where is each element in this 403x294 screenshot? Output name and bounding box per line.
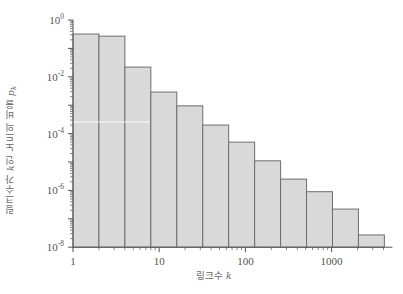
y-label-prefix: 링크수가 xyxy=(5,174,16,214)
y-tick-label: 100 xyxy=(49,12,64,26)
histogram-bar xyxy=(151,92,177,247)
y-tick-label: 10-8 xyxy=(47,239,64,253)
x-axis-ticks: 1101001000 xyxy=(70,247,383,267)
y-axis-ticks: 10010-210-410-610-8 xyxy=(47,12,73,253)
y-tick-label: 10-2 xyxy=(47,69,64,83)
histogram-bar xyxy=(125,67,151,247)
y-tick-label: 10-4 xyxy=(47,126,64,140)
histogram-bar xyxy=(255,161,281,247)
x-axis-label: 링크수 k xyxy=(196,268,232,282)
histogram-chart: 10010-210-410-610-8 1101001000 xyxy=(0,0,403,294)
histogram-bar xyxy=(99,36,125,247)
x-tick-label: 1000 xyxy=(321,255,344,267)
y-label-pk: p xyxy=(5,90,16,96)
y-axis-label: 링크수가 k인 노드의 비율 pk xyxy=(4,50,18,250)
x-label-var: k xyxy=(226,270,232,281)
histogram-bar xyxy=(177,106,203,247)
histogram-bar xyxy=(229,142,255,247)
x-tick-label: 1 xyxy=(70,255,76,267)
histogram-bar xyxy=(73,34,99,247)
y-label-var: k xyxy=(5,165,16,171)
x-tick-label: 10 xyxy=(154,255,166,267)
x-label-text: 링크수 xyxy=(196,270,223,281)
histogram-bar xyxy=(203,125,229,247)
histogram-bar xyxy=(307,192,333,248)
x-tick-label: 100 xyxy=(237,255,254,267)
histogram-bar xyxy=(358,235,384,247)
histogram-bars xyxy=(73,34,384,247)
histogram-bar xyxy=(281,179,307,247)
y-label-sub: k xyxy=(10,86,18,90)
y-tick-label: 10-6 xyxy=(47,182,64,196)
y-label-suffix: 인 노드의 비율 xyxy=(5,99,16,165)
histogram-bar xyxy=(332,209,358,247)
